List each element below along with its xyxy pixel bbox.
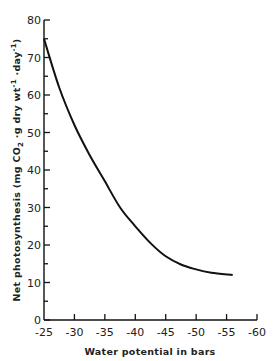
y-tick-label: 10 bbox=[27, 277, 41, 290]
x-axis-ticks: -25-30-35-40-45-50-55-60 bbox=[35, 314, 266, 339]
x-tick-label: -40 bbox=[126, 326, 144, 339]
x-tick-label: -50 bbox=[187, 326, 205, 339]
y-tick-label: 50 bbox=[27, 127, 41, 140]
y-tick-label: 20 bbox=[27, 239, 41, 252]
x-tick-label: -35 bbox=[96, 326, 114, 339]
x-tick-label: -60 bbox=[248, 326, 266, 339]
x-tick-label: -45 bbox=[157, 326, 175, 339]
y-axis-label: Net photosynthesis (mg CO2 ·g dry wt-1 ·… bbox=[10, 38, 25, 301]
y-axis-ticks: 01020304050607080 bbox=[27, 14, 50, 327]
y-tick-label: 80 bbox=[27, 14, 41, 27]
x-tick-label: -55 bbox=[218, 326, 236, 339]
x-tick-label: -30 bbox=[65, 326, 83, 339]
y-tick-label: 60 bbox=[27, 89, 41, 102]
chart: 01020304050607080 -25-30-35-40-45-50-55-… bbox=[0, 0, 275, 361]
y-tick-label: 40 bbox=[27, 164, 41, 177]
x-axis-label: Water potential in bars bbox=[84, 346, 215, 357]
x-tick-label: -25 bbox=[35, 326, 53, 339]
y-tick-label: 70 bbox=[27, 52, 41, 65]
y-tick-label: 30 bbox=[27, 202, 41, 215]
data-line bbox=[44, 39, 233, 275]
